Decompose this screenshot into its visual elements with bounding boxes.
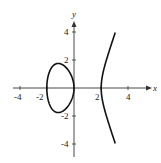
y-tick-label: -2 [61, 111, 69, 121]
y-axis-arrow-icon [72, 21, 77, 27]
x-tick-label: 4 [126, 92, 131, 102]
x-axis-arrow-icon [146, 86, 152, 91]
x-axis-label: x [152, 83, 157, 93]
y-tick-label: 2 [64, 55, 69, 65]
x-tick-label: -4 [14, 92, 22, 102]
y-tick-label: -4 [61, 139, 69, 149]
y-tick-label: 4 [64, 27, 69, 37]
elliptic-curve-plot: x y -4 -2 2 4 4 2 -2 -4 [0, 0, 161, 163]
x-tick-label: 2 [95, 92, 100, 102]
x-tick-label: -2 [36, 92, 44, 102]
y-axis-label: y [71, 9, 76, 19]
